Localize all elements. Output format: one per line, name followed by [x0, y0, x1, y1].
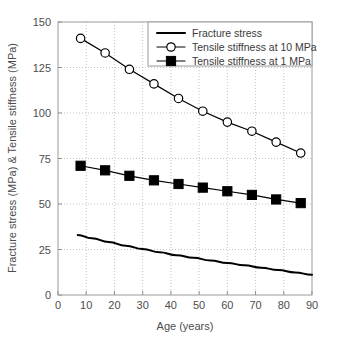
x-tick-label: 40	[165, 299, 177, 311]
data-point-circle	[248, 127, 256, 135]
y-tick-label: 100	[33, 107, 51, 119]
data-point-circle	[150, 80, 158, 88]
series-line-1	[78, 235, 312, 275]
x-tick-label: 30	[137, 299, 149, 311]
data-point-square	[223, 187, 232, 196]
y-tick-label: 0	[45, 289, 51, 301]
data-point-square	[149, 176, 158, 185]
y-tick-labels: 0255075100125150	[33, 16, 51, 301]
data-point-square	[296, 198, 305, 207]
data-point-square	[174, 179, 183, 188]
y-axis-title: Fracture stress (MPa) & Tensile stiffnes…	[6, 43, 18, 273]
y-tick-label: 25	[39, 244, 51, 256]
legend-item-label: Fracture stress	[192, 27, 262, 39]
legend-item-label: Tensile stiffness at 10 MPa	[192, 41, 317, 53]
data-point-square	[125, 171, 134, 180]
data-point-circle	[297, 149, 305, 157]
legend: Fracture stressTensile stiffness at 10 M…	[148, 22, 317, 67]
legend-square-icon	[166, 56, 175, 65]
data-point-circle	[101, 49, 109, 57]
data-point-circle	[76, 34, 84, 42]
chart-figure: 0102030405060708090 0255075100125150 Age…	[0, 0, 340, 340]
series-1	[78, 235, 312, 275]
data-point-circle	[125, 65, 133, 73]
x-tick-label: 10	[80, 299, 92, 311]
x-tick-labels: 0102030405060708090	[55, 299, 318, 311]
x-tick-label: 0	[55, 299, 61, 311]
x-tick-label: 90	[306, 299, 318, 311]
data-point-square	[247, 190, 256, 199]
y-tick-label: 150	[33, 16, 51, 28]
legend-circle-icon	[167, 43, 175, 51]
data-point-circle	[174, 94, 182, 102]
x-tick-label: 60	[221, 299, 233, 311]
x-tick-label: 80	[278, 299, 290, 311]
x-axis-title: Age (years)	[157, 320, 214, 332]
data-point-square	[76, 161, 85, 170]
legend-item-label: Tensile stiffness at 1 MPa	[192, 55, 311, 67]
x-tick-label: 70	[249, 299, 261, 311]
chart-canvas: 0102030405060708090 0255075100125150 Age…	[0, 0, 340, 340]
data-point-circle	[272, 138, 280, 146]
series-line-3	[81, 166, 301, 203]
y-tick-label: 125	[33, 62, 51, 74]
y-tick-label: 50	[39, 198, 51, 210]
data-point-square	[198, 183, 207, 192]
data-point-square	[272, 195, 281, 204]
series-3	[76, 161, 305, 208]
data-point-circle	[199, 107, 207, 115]
data-point-circle	[223, 118, 231, 126]
series-layer	[76, 34, 312, 275]
x-tick-label: 50	[193, 299, 205, 311]
data-point-square	[101, 166, 110, 175]
y-tick-label: 75	[39, 153, 51, 165]
x-tick-label: 20	[108, 299, 120, 311]
